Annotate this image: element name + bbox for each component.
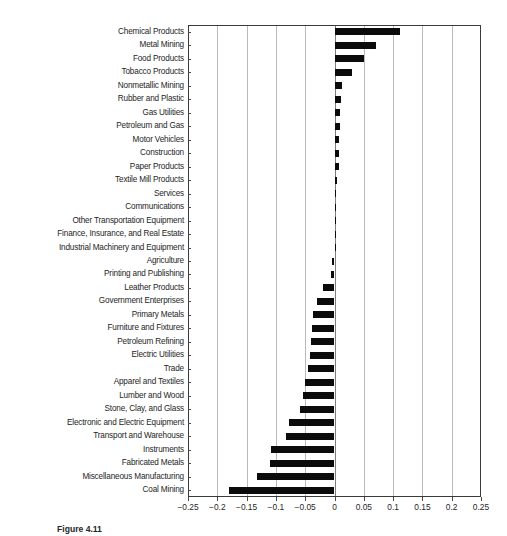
bar [300,406,335,413]
bar [331,271,335,278]
category-tick [188,72,191,73]
x-tick-label: −0.2 [209,502,226,512]
category-tick [188,301,191,302]
category-label: Electric Utilities [131,350,184,359]
category-tick [188,328,191,329]
category-label: Government Enterprises [99,296,184,305]
bar [308,365,335,372]
bar [303,392,334,399]
category-label: Electronic and Electric Equipment [67,418,184,427]
bar [289,419,335,426]
category-label: Metal Mining [140,40,184,49]
category-label: Industrial Machinery and Equipment [59,243,184,252]
bar [335,42,376,49]
bar [257,473,334,480]
category-tick [188,140,191,141]
category-tick [188,382,191,383]
category-label: Stone, Clay, and Glass [104,404,184,413]
category-label: Construction [140,148,184,157]
category-label: Instruments [143,445,184,454]
bar [335,123,340,130]
x-tick-label: 0.25 [473,502,489,512]
category-label: Nonmetallic Mining [118,81,184,90]
category-label: Other Transportation Equipment [72,216,184,225]
category-label: Chemical Products [118,27,184,36]
category-label: Communications [125,202,184,211]
category-axis-labels: Chemical ProductsMetal MiningFood Produc… [0,25,184,497]
category-label: Petroleum Refining [117,337,184,346]
x-tick [305,497,306,501]
bars-layer [188,25,481,497]
x-tick [335,497,336,501]
bar [335,28,401,35]
bar [335,96,341,103]
bar [335,69,353,76]
category-tick [188,59,191,60]
category-label: Coal Mining [143,485,184,494]
category-label: Paper Products [130,162,184,171]
category-tick [188,99,191,100]
category-tick [188,261,191,262]
category-tick [188,274,191,275]
category-tick [188,32,191,33]
x-tick-label: 0.2 [446,502,458,512]
x-tick [422,497,423,501]
bar [270,460,334,467]
category-tick [188,315,191,316]
category-tick [188,153,191,154]
bar [335,217,336,224]
bar [310,352,334,359]
x-tick-label: 0.15 [414,502,430,512]
x-tick [217,497,218,501]
x-tick-label: −0.1 [268,502,285,512]
category-tick [188,234,191,235]
category-tick [188,126,191,127]
category-label: Leather Products [124,283,184,292]
category-tick [188,477,191,478]
category-label: Food Products [133,54,184,63]
x-axis: −0.25−0.2−0.15−0.1−0.0500.050.10.150.20.… [188,497,481,517]
category-tick [188,194,191,195]
category-label: Miscellaneous Manufacturing [82,472,184,481]
bar [313,311,334,318]
category-tick [188,490,191,491]
bar [335,55,364,62]
category-label: Apparel and Textiles [114,377,184,386]
category-label: Rubber and Plastic [118,94,184,103]
category-tick [188,463,191,464]
category-tick [188,423,191,424]
bar [311,338,334,345]
x-tick-label: −0.25 [177,502,198,512]
category-tick [188,288,191,289]
bar [229,487,334,494]
category-tick [188,180,191,181]
bar [335,136,340,143]
figure-caption: Figure 4.11 [57,524,102,534]
category-tick [188,369,191,370]
x-tick [247,497,248,501]
category-tick [188,167,191,168]
category-label: Transport and Warehouse [93,431,184,440]
x-tick-label: 0.05 [356,502,372,512]
category-label: Lumber and Wood [119,391,184,400]
bar [335,204,336,211]
x-tick-label: 0.1 [387,502,399,512]
category-tick [188,248,191,249]
x-tick-label: −0.15 [236,502,257,512]
category-tick [188,86,191,87]
x-tick [452,497,453,501]
category-tick [188,207,191,208]
category-label: Finance, Insurance, and Real Estate [57,229,184,238]
category-tick [188,113,191,114]
category-label: Tobacco Products [122,67,184,76]
x-tick [188,497,189,501]
x-tick [364,497,365,501]
x-tick-label: 0 [332,502,337,512]
category-label: Agriculture [147,256,184,265]
bar [332,258,334,265]
x-tick [481,497,482,501]
category-tick [188,396,191,397]
bar [312,325,334,332]
category-tick [188,45,191,46]
category-label: Petroleum and Gas [116,121,184,130]
